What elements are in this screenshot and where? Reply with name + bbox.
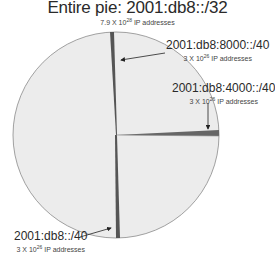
slice-count: 3 X 1026 IP addresses: [166, 52, 269, 63]
slice-count: 3 X 1026 IP addresses: [172, 95, 275, 106]
slice-label-4000: 2001:db8:4000::/40 3 X 1026 IP addresses: [172, 82, 275, 106]
slice-prefix: 2001:db8::/40: [14, 230, 87, 243]
slice-prefix: 2001:db8:4000::/40: [172, 82, 275, 95]
slice-label-0000: 2001:db8::/40 3 X 1026 IP addresses: [14, 230, 87, 254]
slice-label-8000: 2001:db8:8000::/40 3 X 1026 IP addresses: [166, 39, 269, 63]
slice-prefix: 2001:db8:8000::/40: [166, 39, 269, 52]
slice-count: 3 X 1026 IP addresses: [14, 243, 87, 254]
